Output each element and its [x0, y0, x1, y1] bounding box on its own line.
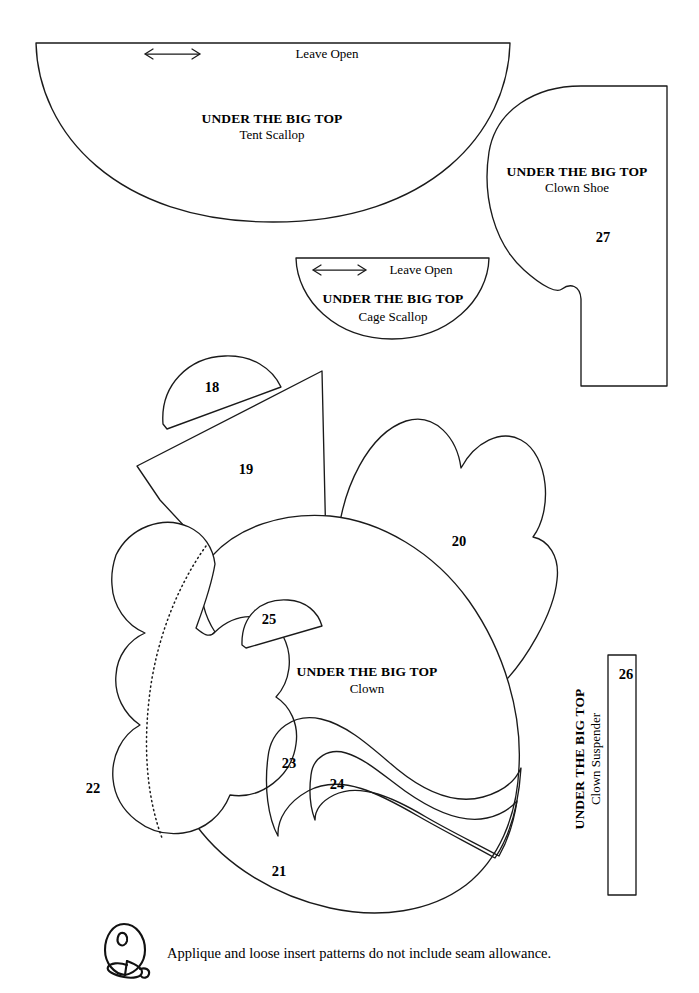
- seam-allowance-note: Applique and loose insert patterns do no…: [167, 945, 551, 961]
- piece-number-20: 20: [452, 533, 467, 549]
- piece-number-25: 25: [262, 611, 277, 627]
- clown-brand-label: UNDER THE BIG TOP: [297, 664, 438, 679]
- piece-number-21: 21: [272, 863, 287, 879]
- piece-number-27: 27: [596, 229, 611, 245]
- clown-shoe-outline: [487, 86, 667, 386]
- tent-scallop-name-label: Tent Scallop: [239, 128, 304, 143]
- piece-26-suspender-outline: [608, 655, 636, 895]
- clown-suspender-name-label: Clown Suspender: [588, 664, 604, 854]
- cage-scallop-name-label: Cage Scallop: [359, 310, 428, 325]
- clown-shoe-brand-label: UNDER THE BIG TOP: [507, 164, 648, 179]
- pattern-sheet: Leave Open UNDER THE BIG TOP Tent Scallo…: [0, 0, 699, 993]
- balloon-icon: [105, 924, 149, 978]
- cage-scallop-leave-open-label: Leave Open: [389, 263, 452, 278]
- piece-number-24: 24: [330, 776, 345, 792]
- clown-suspender-label-group: UNDER THE BIG TOP Clown Suspender: [572, 664, 604, 854]
- piece-number-18: 18: [205, 379, 220, 395]
- piece-number-22: 22: [86, 780, 101, 796]
- cage-scallop-brand-label: UNDER THE BIG TOP: [323, 291, 464, 306]
- piece-number-19: 19: [239, 461, 254, 477]
- piece-number-23: 23: [282, 755, 297, 771]
- tent-scallop-leave-open-label: Leave Open: [295, 47, 358, 62]
- clown-suspender-brand-label: UNDER THE BIG TOP: [572, 664, 588, 854]
- clown-name-label: Clown: [350, 682, 385, 697]
- tent-scallop-brand-label: UNDER THE BIG TOP: [202, 111, 343, 126]
- clown-shoe-name-label: Clown Shoe: [545, 181, 609, 196]
- piece-number-26: 26: [619, 666, 634, 682]
